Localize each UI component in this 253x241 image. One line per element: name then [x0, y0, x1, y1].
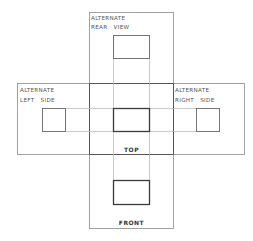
rear-label-line2: REAR VIEW — [91, 24, 129, 30]
left-label-line2: LEFT SIDE — [20, 97, 55, 103]
right-side-box — [197, 109, 220, 132]
left-label-line1: ALTERNATE — [20, 87, 54, 93]
left-side-box — [43, 109, 66, 132]
top-view-box — [114, 109, 150, 132]
right-label-line1: ALTERNATE — [175, 87, 209, 93]
orthographic-views-diagram: ALTERNATE REAR VIEW ALTERNATE LEFT SIDE … — [0, 0, 253, 241]
rear-view-box — [114, 36, 150, 59]
front-view-box — [114, 181, 150, 205]
front-label: FRONT — [119, 219, 145, 226]
right-label-line2: RIGHT SIDE — [175, 97, 215, 103]
top-label: TOP — [124, 146, 139, 153]
rear-label-line1: ALTERNATE — [91, 15, 125, 21]
